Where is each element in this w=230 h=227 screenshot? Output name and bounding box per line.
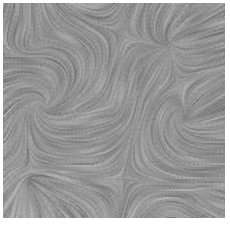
lic-vector-field-image (3, 3, 225, 218)
figure-stage (0, 0, 230, 227)
